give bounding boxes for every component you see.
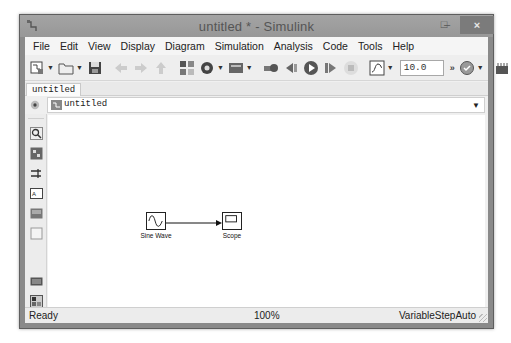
model-tab-bar: untitled xyxy=(25,82,488,96)
resize-grip-icon[interactable] xyxy=(479,314,487,322)
scope-block[interactable] xyxy=(222,212,242,230)
image-button[interactable] xyxy=(29,206,43,220)
stop-button[interactable] xyxy=(343,59,359,77)
client-area: File Edit View Display Diagram Simulatio… xyxy=(25,37,488,323)
close-icon: × xyxy=(474,19,480,31)
menu-file[interactable]: File xyxy=(29,40,54,52)
new-model-dropdown[interactable]: ▼ xyxy=(47,64,54,71)
sine-wave-label: Sine Wave xyxy=(138,232,174,239)
model-canvas[interactable]: Sine Wave Scope xyxy=(48,115,485,307)
step-forward-icon xyxy=(323,60,339,76)
menu-code[interactable]: Code xyxy=(319,40,352,52)
hide-model-browser-button[interactable] xyxy=(29,99,41,111)
zoom-button[interactable] xyxy=(29,126,43,140)
window-title: untitled * - Simulink xyxy=(20,19,493,34)
library-browser-button[interactable] xyxy=(179,59,195,77)
model-browser-button[interactable] xyxy=(29,294,43,308)
zoom-level: 100% xyxy=(254,310,280,321)
model-browser-icon xyxy=(30,295,43,308)
palette-divider xyxy=(28,118,44,119)
model-config-button[interactable] xyxy=(199,59,215,77)
stop-time-input[interactable] xyxy=(400,60,444,76)
sine-wave-icon xyxy=(147,213,165,229)
toolbar-overflow-button[interactable]: » xyxy=(450,63,455,73)
annotation-button[interactable]: A xyxy=(29,186,43,200)
open-dropdown[interactable]: ▼ xyxy=(76,64,83,71)
screenshot-button[interactable] xyxy=(29,274,43,288)
advisor-button[interactable] xyxy=(459,59,475,77)
open-button[interactable] xyxy=(58,59,74,77)
menu-bar: File Edit View Display Diagram Simulatio… xyxy=(25,37,488,55)
breadcrumb[interactable]: untitled ▼ xyxy=(47,97,485,113)
title-bar[interactable]: untitled * - Simulink – □ × xyxy=(20,15,493,37)
tool-palette: A » xyxy=(25,114,47,307)
save-button[interactable] xyxy=(87,59,103,77)
menu-diagram[interactable]: Diagram xyxy=(161,40,209,52)
simulink-window: untitled * - Simulink – □ × File Edit Vi… xyxy=(19,14,494,329)
menu-tools[interactable]: Tools xyxy=(354,40,387,52)
fit-view-icon xyxy=(30,147,43,160)
menu-view[interactable]: View xyxy=(84,40,115,52)
build-icon xyxy=(263,60,279,76)
folder-icon xyxy=(58,60,74,76)
model-browser-toggle-icon xyxy=(30,100,40,110)
zoom-icon xyxy=(30,127,43,140)
library-icon xyxy=(179,60,195,76)
run-button[interactable] xyxy=(303,59,319,77)
tab-untitled[interactable]: untitled xyxy=(26,83,81,96)
svg-text:A: A xyxy=(32,191,36,197)
maximize-button[interactable]: □ xyxy=(434,15,454,33)
area-button[interactable] xyxy=(29,226,43,240)
arrow-right-icon xyxy=(133,60,149,76)
hardware-icon xyxy=(494,60,510,76)
step-back-button[interactable] xyxy=(283,59,299,77)
advisor-icon xyxy=(459,60,475,76)
screenshot-icon xyxy=(30,275,43,288)
step-back-icon xyxy=(283,60,299,76)
signal-routing-button[interactable] xyxy=(29,166,43,180)
advisor-dropdown[interactable]: ▼ xyxy=(477,64,484,71)
status-text: Ready xyxy=(29,310,58,321)
explorer-bar: untitled ▼ xyxy=(25,96,488,114)
scope-icon xyxy=(223,213,241,229)
breadcrumb-dropdown-icon[interactable]: ▼ xyxy=(472,101,480,110)
sine-wave-block[interactable] xyxy=(146,212,166,230)
model-explorer-button[interactable] xyxy=(228,59,244,77)
play-icon xyxy=(303,60,319,76)
up-button[interactable] xyxy=(153,59,169,77)
image-icon xyxy=(30,207,43,220)
arrow-left-icon xyxy=(113,60,129,76)
menu-display[interactable]: Display xyxy=(117,40,159,52)
signal-icon xyxy=(369,60,385,76)
floppy-icon xyxy=(87,60,103,76)
hardware-button[interactable] xyxy=(494,59,510,77)
close-button[interactable]: × xyxy=(460,16,494,34)
new-model-icon xyxy=(29,60,45,76)
explorer-icon xyxy=(228,60,244,76)
forward-button[interactable] xyxy=(133,59,149,77)
menu-simulation[interactable]: Simulation xyxy=(211,40,268,52)
model-icon xyxy=(51,100,62,110)
breadcrumb-path[interactable]: untitled xyxy=(64,99,107,109)
fit-view-button[interactable] xyxy=(29,146,43,160)
gear-icon xyxy=(199,60,215,76)
data-inspector-button[interactable] xyxy=(369,59,385,77)
annotation-icon: A xyxy=(30,187,43,200)
back-button[interactable] xyxy=(113,59,129,77)
build-button[interactable] xyxy=(263,59,279,77)
toolbar: ▼ ▼ ▼ xyxy=(25,55,488,81)
solver-name[interactable]: VariableStepAuto xyxy=(399,310,476,321)
model-explorer-dropdown[interactable]: ▼ xyxy=(246,64,253,71)
menu-help[interactable]: Help xyxy=(388,40,418,52)
step-forward-button[interactable] xyxy=(323,59,339,77)
new-model-button[interactable] xyxy=(29,59,45,77)
scope-label: Scope xyxy=(216,232,248,239)
menu-edit[interactable]: Edit xyxy=(56,40,82,52)
menu-analysis[interactable]: Analysis xyxy=(270,40,317,52)
model-config-dropdown[interactable]: ▼ xyxy=(217,64,224,71)
area-icon xyxy=(30,227,43,240)
signal-line[interactable] xyxy=(166,219,222,227)
data-inspector-dropdown[interactable]: ▼ xyxy=(387,64,394,71)
arrow-up-icon xyxy=(153,60,169,76)
status-bar: Ready 100% VariableStepAuto xyxy=(25,307,488,323)
